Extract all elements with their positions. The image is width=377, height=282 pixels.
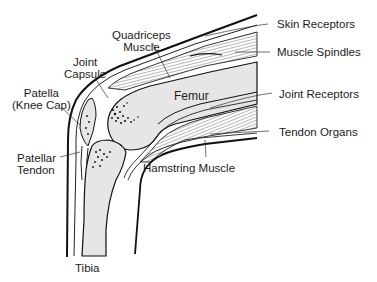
tibia-bone <box>82 140 126 256</box>
label-patella-line1: Patella <box>12 87 71 99</box>
label-joint-capsule-line1: Joint <box>64 56 106 68</box>
label-joint-capsule-line2: Capsule <box>64 68 106 80</box>
label-patellar-tendon: Patellar Tendon <box>17 152 56 176</box>
label-patella-line2: (Knee Cap) <box>12 99 71 111</box>
posterior-skin-outline <box>128 133 257 254</box>
label-hamstring-muscle: Hamstring Muscle <box>143 162 235 174</box>
label-joint-receptors: Joint Receptors <box>279 88 359 100</box>
label-quadriceps-muscle: Quadriceps Muscle <box>112 29 171 53</box>
label-patellar-tendon-line1: Patellar <box>17 152 56 164</box>
shin-inner-line <box>74 160 76 256</box>
knee-anatomy-illustration <box>0 0 377 282</box>
label-femur: Femur <box>174 90 209 102</box>
label-skin-receptors: Skin Receptors <box>277 18 355 30</box>
label-patellar-tendon-line2: Tendon <box>17 164 56 176</box>
label-joint-capsule: Joint Capsule <box>64 56 106 80</box>
label-quadriceps-line2: Muscle <box>112 41 171 53</box>
label-patella: Patella (Knee Cap) <box>12 87 71 111</box>
label-muscle-spindles: Muscle Spindles <box>277 46 361 58</box>
label-quadriceps-line1: Quadriceps <box>112 29 171 41</box>
knee-receptor-diagram: Quadriceps Muscle Joint Capsule Patella … <box>0 0 377 282</box>
label-tendon-organs: Tendon Organs <box>279 126 358 138</box>
label-tibia: Tibia <box>75 262 100 274</box>
